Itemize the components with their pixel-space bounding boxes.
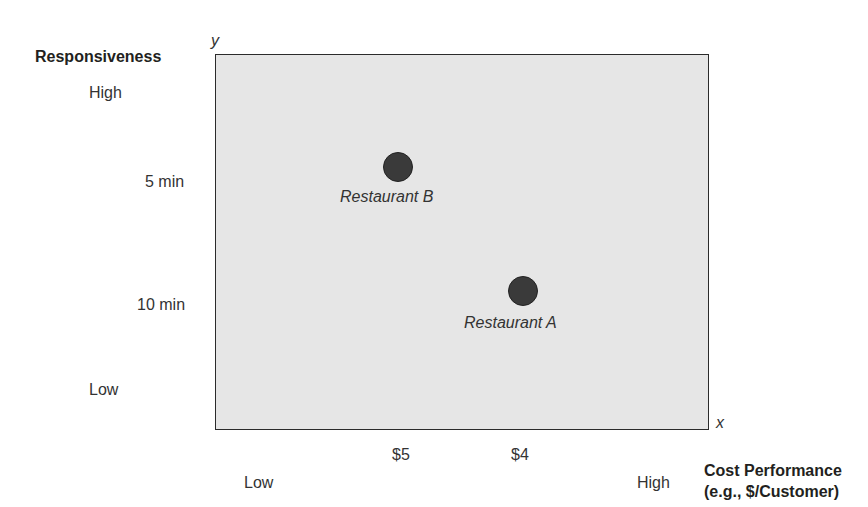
y-high-label: High — [89, 84, 122, 102]
x-axis-letter: x — [716, 414, 724, 432]
y-tick-10min: 10 min — [137, 296, 185, 314]
y-axis-title: Responsiveness — [35, 48, 161, 66]
point-label-restaurant-a: Restaurant A — [464, 314, 557, 332]
point-label-restaurant-b: Restaurant B — [340, 188, 433, 206]
data-point-restaurant-b — [383, 152, 413, 182]
x-axis-title-line1: Cost Performance — [704, 460, 842, 481]
y-low-label: Low — [89, 381, 118, 399]
x-axis-title: Cost Performance (e.g., $/Customer) — [704, 460, 842, 502]
x-high-label: High — [637, 474, 670, 492]
data-point-restaurant-a — [508, 276, 538, 306]
x-low-label: Low — [244, 474, 273, 492]
y-tick-5min: 5 min — [145, 173, 184, 191]
x-tick-5: $5 — [392, 446, 410, 464]
x-tick-4: $4 — [511, 446, 529, 464]
x-axis-title-line2: (e.g., $/Customer) — [704, 481, 842, 502]
plot-area — [215, 54, 709, 430]
y-axis-letter: y — [211, 32, 219, 50]
